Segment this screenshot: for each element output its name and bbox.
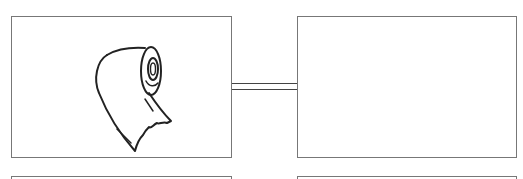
toilet-paper-roll-icon [87,31,182,156]
connector-line-upper [232,83,297,84]
panel-top-left [11,16,232,158]
panel-bottom-right [297,176,517,179]
panel-top-right [297,16,517,158]
connector-line-lower [232,89,297,90]
panel-bottom-left [11,176,232,179]
